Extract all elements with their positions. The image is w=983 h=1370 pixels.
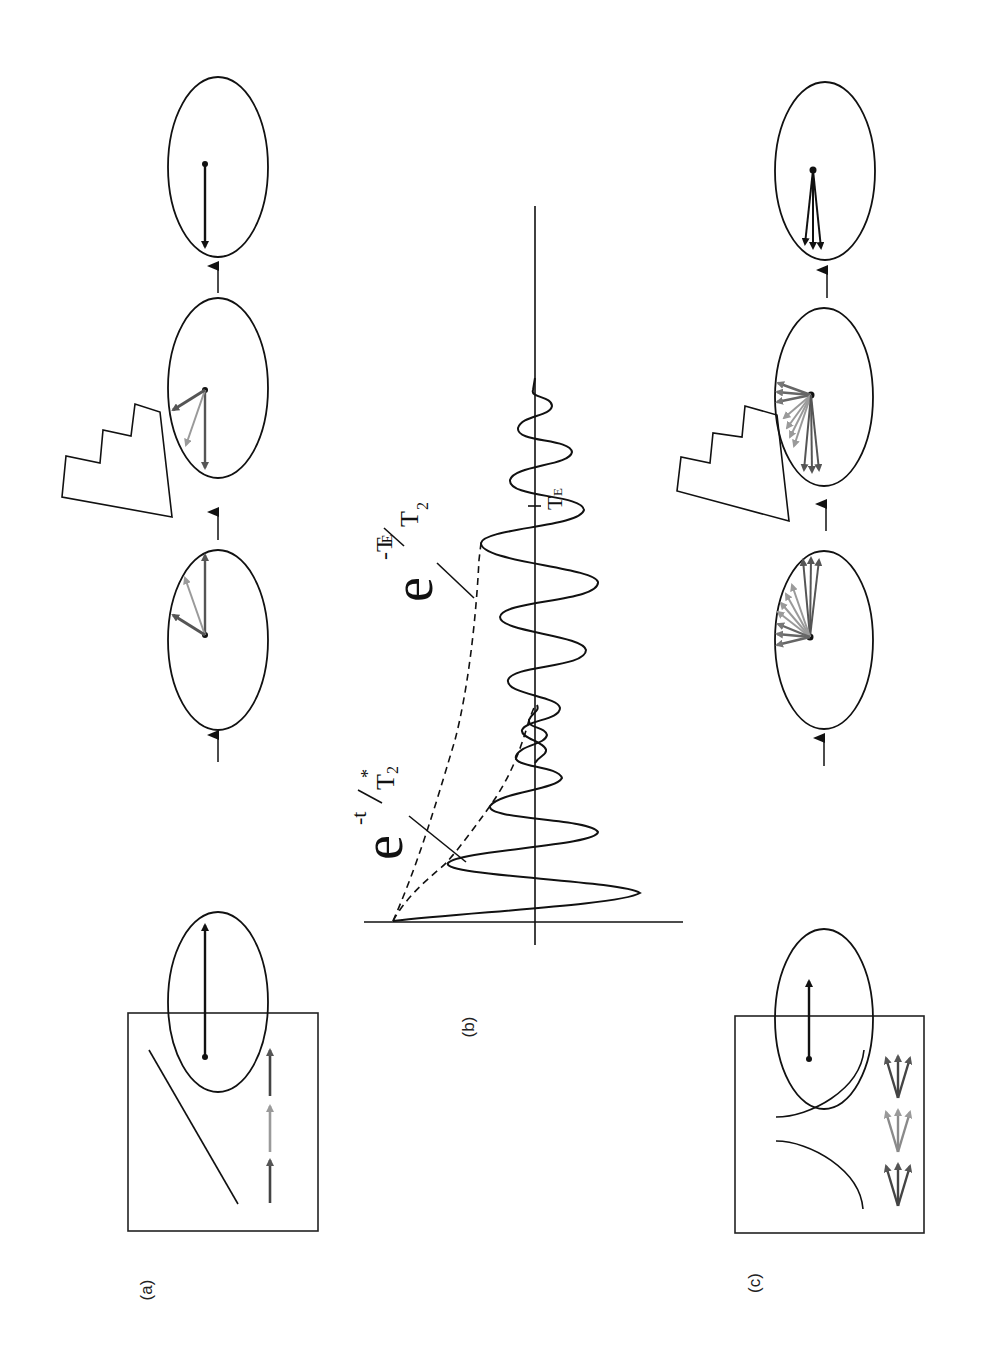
- t2star-envelope: [393, 705, 535, 921]
- rf-pulse-lightning-icon: [62, 404, 172, 517]
- spin-echo-figure: (a): [0, 0, 983, 1370]
- panel-a: (a): [62, 77, 318, 1300]
- panel-c-state-2: [775, 551, 873, 729]
- field-curve-lower: [776, 1141, 863, 1209]
- panel-a-label: (a): [137, 1280, 156, 1301]
- t2star-pointer: [409, 816, 466, 862]
- svg-text:2: 2: [384, 766, 401, 774]
- signal-plot: [364, 206, 683, 945]
- exp-base: e: [352, 835, 414, 860]
- echo-curve: [481, 378, 598, 763]
- panel-c-state-4: [775, 82, 875, 260]
- t2star-equation: e -t T * 2: [346, 766, 414, 860]
- fid-curve: [393, 705, 640, 921]
- svg-text:e: e: [382, 577, 444, 602]
- gradient-line: [149, 1050, 238, 1204]
- svg-text:T: T: [542, 496, 567, 510]
- svg-text:*: *: [358, 769, 378, 778]
- panel-c-state-3: [775, 308, 873, 486]
- panel-a-state-3: [168, 298, 268, 478]
- panel-c-label: (c): [745, 1273, 764, 1293]
- svg-text:2: 2: [414, 502, 431, 510]
- rf-pulse-lightning-icon: [677, 406, 789, 521]
- spread-spins-icon: [886, 1056, 910, 1206]
- te-label: T E: [542, 488, 567, 510]
- svg-text:T: T: [395, 511, 424, 527]
- panel-a-state-4: [168, 77, 268, 257]
- panel-c-inset: [735, 1016, 924, 1233]
- panel-a-state-2: [168, 550, 268, 730]
- panel-c-state-1: [775, 929, 873, 1109]
- panel-a-inset: [128, 1013, 318, 1231]
- t2-equation: e -T E T 2: [371, 502, 444, 602]
- panel-b-label: (b): [459, 1017, 478, 1038]
- panel-b: (b) e -t T * 2: [346, 206, 683, 1037]
- panel-c: (c): [677, 82, 924, 1293]
- panel-a-state-1: [168, 912, 268, 1092]
- svg-text:-t: -t: [346, 812, 371, 825]
- svg-text:E: E: [550, 488, 565, 496]
